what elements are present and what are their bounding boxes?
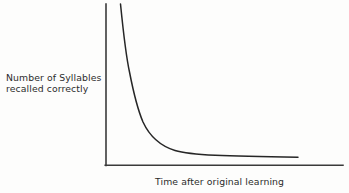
y-axis-label-line-2: recalled correctly [6, 83, 101, 94]
y-axis-label-line-1: Number of Syllables [6, 72, 101, 83]
forgetting-curve-chart [0, 0, 349, 193]
figure-container: Number of Syllables recalled correctly T… [0, 0, 349, 193]
y-axis-label: Number of Syllables recalled correctly [6, 72, 101, 95]
x-axis-label: Time after original learning [155, 176, 284, 187]
forgetting-curve-line [121, 4, 299, 157]
